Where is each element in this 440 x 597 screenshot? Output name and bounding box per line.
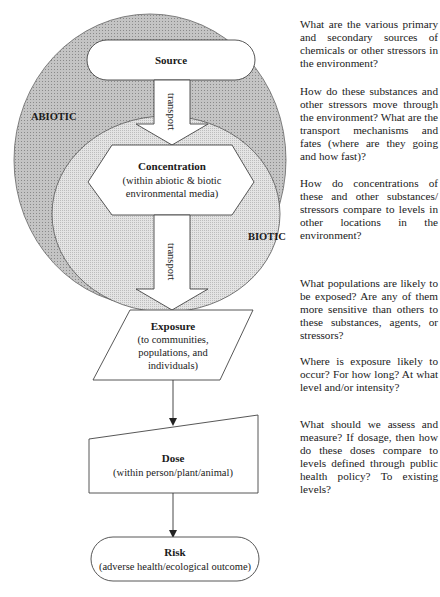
dose-subtitle-1: (within person/plant/animal) — [113, 467, 233, 479]
question-exposure: Where is exposure likely to occur? For h… — [300, 355, 438, 394]
risk-node — [91, 537, 259, 581]
abiotic-label: ABIOTIC — [31, 111, 77, 122]
question-concentration: How do concentrations of these and other… — [300, 177, 438, 242]
concentration-subtitle-2: environmental media) — [126, 188, 219, 200]
question-source: What are the various primary and seconda… — [300, 18, 438, 70]
question-source-text: What are the various primary and seconda… — [300, 18, 438, 70]
question-populations: What populations are likely to be expose… — [300, 277, 438, 342]
question-concentration-text: How do concentrations of these and other… — [300, 177, 438, 242]
exposure-risk-diagram: ABIOTIC BIOTIC Source transport Concentr… — [0, 0, 290, 597]
question-dose: What should we assess and measure? If do… — [300, 418, 438, 496]
dose-title: Dose — [162, 452, 185, 464]
exposure-subtitle-2: populations, and — [138, 347, 208, 358]
transport-label-1: transport — [166, 93, 177, 130]
question-transport-text: How do these substances and other stress… — [300, 85, 438, 163]
exposure-title: Exposure — [151, 320, 196, 332]
concentration-subtitle-1: (within abiotic & biotic — [123, 175, 222, 187]
transport-label-2: transport — [166, 243, 177, 280]
question-populations-text: What populations are likely to be expose… — [300, 277, 438, 342]
exposure-subtitle-3: individuals) — [148, 360, 199, 372]
question-exposure-text: Where is exposure likely to occur? For h… — [300, 355, 438, 394]
source-title: Source — [155, 54, 187, 66]
biotic-label: BIOTIC — [248, 231, 286, 242]
question-transport: How do these substances and other stress… — [300, 85, 438, 163]
concentration-title: Concentration — [138, 160, 206, 172]
exposure-subtitle-1: (to communities, — [137, 334, 208, 346]
risk-subtitle-1: (adverse health/ecological outcome) — [99, 561, 252, 573]
arrowhead-icon — [169, 418, 177, 426]
risk-title: Risk — [164, 546, 186, 558]
question-dose-text: What should we assess and measure? If do… — [300, 418, 438, 496]
